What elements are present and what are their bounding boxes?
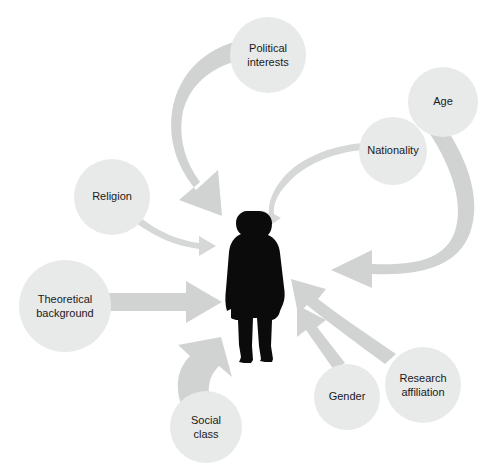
node-gender[interactable]: Gender	[314, 364, 380, 430]
node-label-political-interests-line2: interests	[247, 56, 289, 68]
diagram-canvas: Political interests Age Nationality Reli…	[0, 0, 485, 475]
node-label-social-class-line2: class	[193, 428, 219, 440]
node-label-age: Age	[433, 95, 453, 107]
arrow-theoretical-background	[106, 281, 222, 323]
node-label-research-affiliation-line2: affiliation	[401, 386, 444, 398]
node-label-theoretical-background-line2: background	[36, 307, 94, 319]
node-political-interests[interactable]: Political interests	[230, 17, 306, 93]
node-age[interactable]: Age	[408, 67, 478, 137]
node-label-religion: Religion	[92, 190, 132, 202]
node-label-political-interests-line1: Political	[249, 42, 287, 54]
node-theoretical-background[interactable]: Theoretical background	[19, 260, 111, 352]
node-label-theoretical-background-line1: Theoretical	[38, 293, 92, 305]
arrow-religion	[136, 218, 216, 256]
node-label-research-affiliation-line1: Research	[399, 372, 446, 384]
node-social-class[interactable]: Social class	[170, 391, 242, 463]
node-label-gender: Gender	[329, 390, 366, 402]
node-nationality[interactable]: Nationality	[359, 117, 427, 185]
node-label-social-class-line1: Social	[191, 414, 221, 426]
influence-diagram: Political interests Age Nationality Reli…	[0, 0, 485, 475]
node-religion[interactable]: Religion	[74, 159, 150, 235]
node-label-nationality: Nationality	[367, 144, 419, 156]
node-research-affiliation[interactable]: Research affiliation	[385, 347, 461, 423]
arrow-nationality	[262, 143, 362, 228]
person-silhouette-icon	[225, 211, 284, 363]
